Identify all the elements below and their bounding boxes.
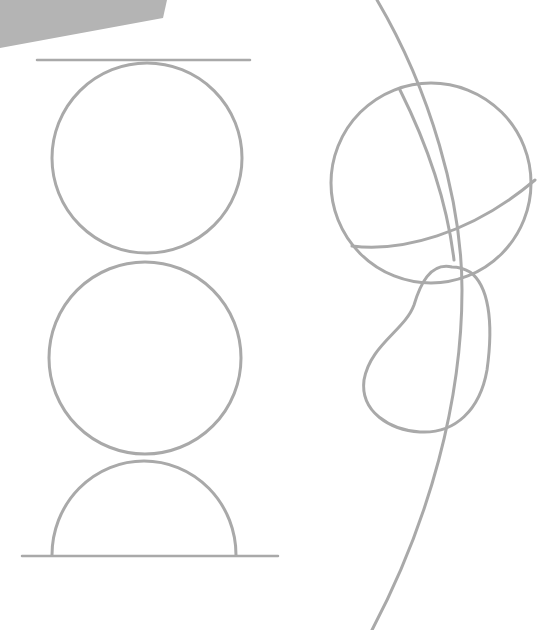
sphere [331, 83, 531, 283]
left-circle-stack [22, 60, 278, 556]
right-sphere-figure [331, 0, 535, 630]
top-circle [52, 63, 242, 253]
sketch-canvas [0, 0, 540, 630]
bean-shape [364, 266, 490, 432]
middle-circle [49, 262, 241, 454]
cross-contour-arc [352, 180, 535, 247]
shaded-block [0, 0, 167, 48]
bottom-semicircle [52, 461, 236, 555]
